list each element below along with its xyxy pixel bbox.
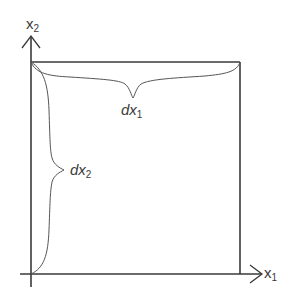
- dx2-label-subscript: 2: [86, 169, 92, 180]
- dx2-brace: [31, 62, 64, 274]
- diagram-canvas: [0, 0, 295, 300]
- x1-axis-label: x1: [264, 265, 277, 283]
- dx2-label-text: dx: [70, 161, 86, 178]
- x1-axis-name: x: [264, 264, 272, 281]
- dx1-label-subscript: 1: [137, 109, 143, 120]
- x1-axis-subscript: 1: [272, 272, 278, 283]
- dx1-brace: [31, 62, 240, 98]
- x2-axis-label: x2: [26, 16, 39, 34]
- x2-axis-name: x: [26, 15, 34, 32]
- x2-axis-subscript: 2: [34, 23, 40, 34]
- dx1-label: dx1: [121, 102, 142, 120]
- dx1-label-text: dx: [121, 101, 137, 118]
- dx2-label: dx2: [70, 162, 91, 180]
